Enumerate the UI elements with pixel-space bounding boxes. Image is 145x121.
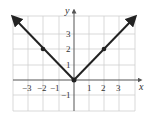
point-neg2-2 xyxy=(41,47,46,52)
x-tick-neg2: −2 xyxy=(37,83,47,93)
point-origin xyxy=(72,78,77,83)
y-axis-label: y xyxy=(64,5,70,16)
y-tick-neg1: −1 xyxy=(61,90,71,100)
absolute-value-graph: −3 −2 −1 1 2 3 3 2 1 −1 x y xyxy=(0,0,145,121)
x-tick-3: 3 xyxy=(116,83,121,93)
y-tick-1: 1 xyxy=(66,60,71,70)
x-tick-1: 1 xyxy=(87,83,92,93)
x-axis-label: x xyxy=(138,81,144,92)
y-tick-3: 3 xyxy=(66,29,71,39)
x-tick-2: 2 xyxy=(101,83,106,93)
point-2-2 xyxy=(102,47,107,52)
y-tick-2: 2 xyxy=(66,44,71,54)
x-tick-neg3: −3 xyxy=(22,83,32,93)
x-tick-neg1: −1 xyxy=(50,83,60,93)
